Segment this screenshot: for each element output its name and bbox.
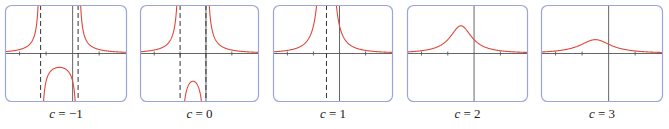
caption-value: = 1	[326, 106, 346, 121]
caption-value: = 0	[192, 106, 212, 121]
function-curve	[327, 0, 394, 52]
function-curve	[273, 0, 326, 52]
plot-area	[5, 5, 127, 102]
function-curve	[5, 0, 41, 52]
panel-caption: c = 1	[273, 106, 393, 122]
graph-panel-c-0	[140, 5, 259, 102]
plot-area	[541, 5, 663, 102]
caption-value: = 3	[595, 106, 615, 121]
function-curve	[78, 0, 127, 52]
function-curve	[140, 0, 180, 52]
panel-caption: c = 2	[407, 106, 528, 122]
caption-value: = 2	[460, 106, 480, 121]
plot-area	[407, 5, 528, 102]
plot-area	[273, 5, 393, 102]
graph-panel-c--1	[5, 5, 127, 102]
function-curve	[206, 0, 259, 52]
function-curve	[407, 26, 528, 53]
panel-caption: c = −1	[5, 106, 127, 122]
panel-caption: c = 3	[541, 106, 663, 122]
caption-value: = −1	[55, 106, 83, 121]
graph-panel-c-3	[541, 5, 663, 102]
function-curve	[541, 40, 663, 53]
graph-panel-c-1	[273, 5, 393, 102]
graph-panel-c-2	[407, 5, 528, 102]
plot-area	[140, 5, 259, 102]
panel-caption: c = 0	[140, 106, 259, 122]
